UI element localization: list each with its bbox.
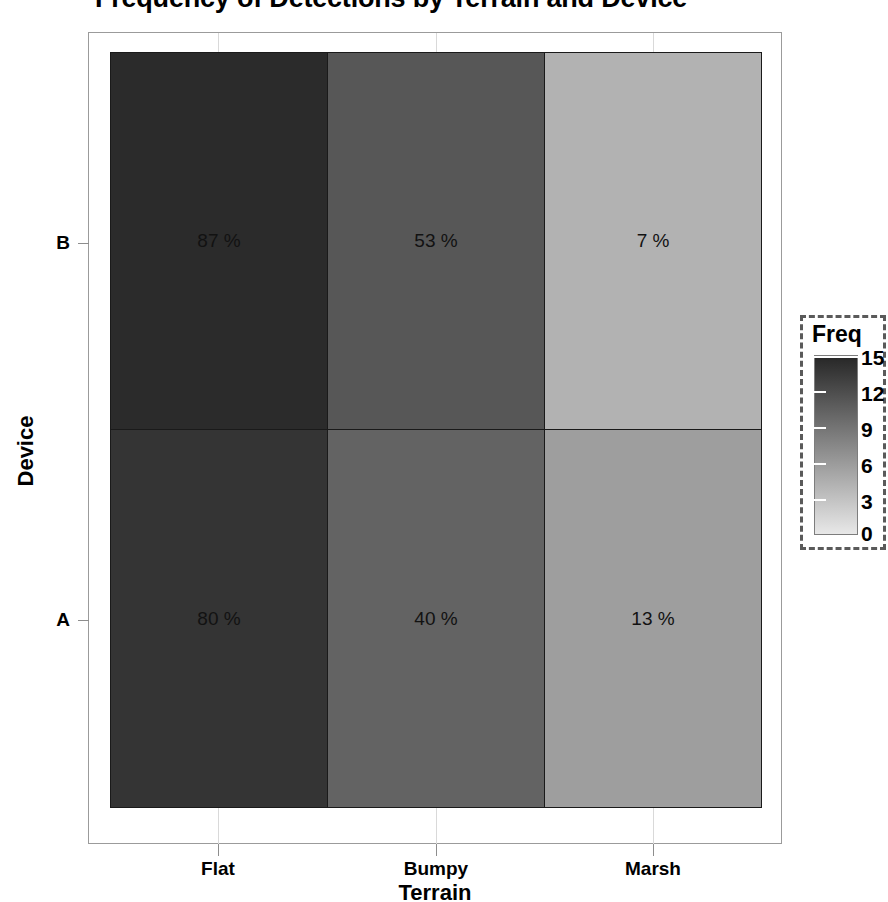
x-tick-label-flat: Flat — [138, 858, 298, 880]
heatmap-cell-a-bumpy[interactable]: 40 % — [328, 430, 545, 807]
colorbar-tick-12 — [814, 391, 826, 393]
x-tick-mark-marsh — [653, 844, 654, 856]
heatmap-cell-b-bumpy[interactable]: 53 % — [328, 53, 545, 430]
y-axis-title: Device — [13, 391, 39, 511]
x-tick-label-marsh: Marsh — [573, 858, 733, 880]
x-tick-mark-bumpy — [436, 844, 437, 856]
chart-root: Frequency of Detections by Terrain and D… — [0, 0, 888, 902]
colorbar-gradient — [814, 355, 858, 535]
colorbar-tick-3 — [814, 499, 826, 501]
legend-title: Freq — [803, 321, 879, 348]
x-tick-mark-flat — [218, 844, 219, 856]
colorbar-tick-6 — [814, 463, 826, 465]
heatmap-cell-label: 87 % — [111, 230, 327, 252]
colorbar-tick-label-12: 12 — [861, 382, 888, 406]
colorbar-tick-label-0: 0 — [861, 522, 888, 546]
colorbar-tick-9 — [814, 427, 826, 429]
colorbar-tick-label-6: 6 — [861, 454, 888, 478]
x-axis-title: Terrain — [88, 880, 782, 902]
legend-colorbar[interactable]: Freq 15 12 9 6 3 0 — [800, 315, 886, 550]
heatmap-cell-label: 80 % — [111, 608, 327, 630]
x-tick-label-bumpy: Bumpy — [356, 858, 516, 880]
heatmap-row-b: 87 % 53 % 7 % — [111, 53, 761, 430]
heatmap-cell-label: 53 % — [328, 230, 544, 252]
colorbar-tick-label-9: 9 — [861, 418, 888, 442]
chart-title: Frequency of Detections by Terrain and D… — [0, 0, 782, 14]
y-tick-label-a: A — [40, 609, 70, 631]
y-tick-mark-b — [78, 243, 89, 244]
colorbar-tick-label-15: 15 — [861, 346, 888, 370]
heatmap-row-a: 80 % 40 % 13 % — [111, 430, 761, 807]
colorbar-tick-15 — [814, 356, 858, 358]
heatmap-cell-label: 13 % — [545, 608, 761, 630]
heatmap-tile-panel: 87 % 53 % 7 % 80 % 40 % 13 % — [110, 52, 762, 808]
heatmap-cell-label: 40 % — [328, 608, 544, 630]
colorbar-gradient-fill — [815, 356, 857, 534]
heatmap-cell-b-marsh[interactable]: 7 % — [545, 53, 761, 430]
heatmap-cell-label: 7 % — [545, 230, 761, 252]
colorbar-tick-label-3: 3 — [861, 490, 888, 514]
y-tick-label-b: B — [40, 232, 70, 254]
y-tick-mark-a — [78, 620, 89, 621]
heatmap-cell-a-flat[interactable]: 80 % — [111, 430, 328, 807]
heatmap-cell-a-marsh[interactable]: 13 % — [545, 430, 761, 807]
heatmap-cell-b-flat[interactable]: 87 % — [111, 53, 328, 430]
